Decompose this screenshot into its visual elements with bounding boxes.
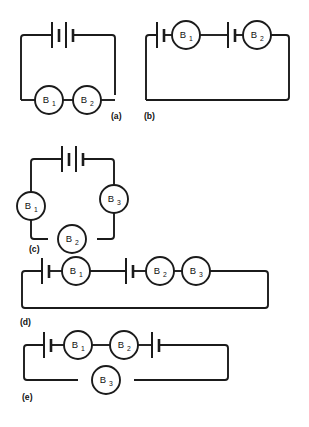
panel-d-wire-bottom <box>22 271 268 308</box>
panel-c-bulb-b2: B 2 <box>58 225 86 253</box>
panel-c-bulb-b3-letter: B <box>108 193 114 204</box>
panel-e-wire-left-top <box>24 345 44 352</box>
panel-c-bulb-b2-subscript: 2 <box>75 239 79 246</box>
panel-b-wire-left <box>146 35 157 100</box>
panel-e-bulb-b1: B 1 <box>64 331 92 359</box>
panel-d: B 1 B 2 B 3 (d) <box>20 257 268 327</box>
panel-e-bulb-b1-subscript: 1 <box>81 345 85 352</box>
panel-c: B 1 B 3 B 2 (c) <box>17 146 128 254</box>
panel-d-bulb-b1-letter: B <box>70 265 76 276</box>
panel-b-bulb-b2: B 2 <box>243 21 271 49</box>
panel-a-bulb-b2-letter: B <box>81 94 87 105</box>
panel-e-bulb-b2-subscript: 2 <box>127 345 131 352</box>
panel-b-bulb-b1-letter: B <box>180 29 186 40</box>
circuit-diagram-canvas: B 1 B 2 (a) <box>0 0 309 427</box>
panel-a-wire-top-left <box>21 35 52 45</box>
panel-d-bulb-b3: B 3 <box>182 257 210 285</box>
panel-a-bulb-b2-subscript: 2 <box>90 100 94 107</box>
panel-d-label: (d) <box>20 317 31 327</box>
panel-c-bulb-b1-subscript: 1 <box>34 206 38 213</box>
panel-c-wire-top-right <box>83 159 114 185</box>
panel-e-bulb-b2-letter: B <box>118 339 124 350</box>
panel-d-bulb-b3-subscript: 3 <box>199 271 203 278</box>
panel-b-label: (b) <box>144 111 155 121</box>
panel-a: B 1 B 2 (a) <box>21 22 122 121</box>
panel-c-bulb-b3-subscript: 3 <box>117 199 121 206</box>
panel-d-bulb-b1: B 1 <box>62 257 90 285</box>
panel-a-wire-top-right <box>73 35 115 95</box>
panel-e-wire-right-bottom <box>134 345 228 380</box>
panel-d-bulb-b1-subscript: 1 <box>79 271 83 278</box>
panel-b-bulb-b1: B 1 <box>172 21 200 49</box>
circuit-figure: B 1 B 2 (a) <box>0 0 309 427</box>
panel-b: B 1 B 2 (b) <box>144 21 289 121</box>
panel-b-battery-2 <box>228 22 235 48</box>
panel-a-bulb-b1: B 1 <box>35 86 63 114</box>
panel-d-bulb-b3-letter: B <box>190 265 196 276</box>
panel-d-battery-2 <box>126 258 133 284</box>
panel-c-wire-top-left <box>31 159 62 192</box>
panel-a-battery-2cell <box>52 22 73 48</box>
panel-c-bulb-b3: B 3 <box>100 185 128 213</box>
panel-b-battery-1 <box>157 22 164 48</box>
panel-a-bulb-b2: B 2 <box>73 86 101 114</box>
panel-b-bulb-b2-letter: B <box>251 29 257 40</box>
panel-e-battery-2 <box>152 332 159 358</box>
panel-e-bulb-b3-subscript: 3 <box>109 380 113 387</box>
panel-c-bulb-b1: B 1 <box>17 192 45 220</box>
panel-d-bulb-b2-subscript: 2 <box>163 271 167 278</box>
panel-e-bulb-b2: B 2 <box>110 331 138 359</box>
panel-e-bulb-b3: B 3 <box>92 366 120 394</box>
panel-b-bulb-b2-subscript: 2 <box>260 35 264 42</box>
panel-a-bulb-b1-letter: B <box>43 94 49 105</box>
panel-e-bulb-b1-letter: B <box>72 339 78 350</box>
panel-d-wire-left-top <box>22 271 42 279</box>
panel-d-bulb-b2: B 2 <box>146 257 174 285</box>
panel-c-bulb-b2-letter: B <box>66 233 72 244</box>
panel-c-wire-right-bottom <box>97 213 114 239</box>
panel-b-bulb-b1-subscript: 1 <box>189 35 193 42</box>
panel-d-bulb-b2-letter: B <box>154 265 160 276</box>
panel-d-battery-1 <box>42 258 49 284</box>
panel-c-battery-2cell <box>62 146 83 172</box>
panel-c-bulb-b1-letter: B <box>25 200 31 211</box>
panel-a-bulb-b1-subscript: 1 <box>52 100 56 107</box>
panel-e: B 1 B 2 B 3 (e) <box>22 331 228 402</box>
panel-a-label: (a) <box>111 111 122 121</box>
panel-e-bulb-b3-letter: B <box>100 374 106 385</box>
panel-e-battery-1 <box>44 332 51 358</box>
panel-c-wire-left-bottom <box>31 220 48 239</box>
panel-e-label: (e) <box>22 392 33 402</box>
panel-c-label: (c) <box>29 244 40 254</box>
